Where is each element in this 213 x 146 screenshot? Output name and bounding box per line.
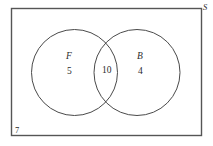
set-label-f: F bbox=[66, 52, 72, 62]
set-label-b: B bbox=[137, 52, 143, 62]
venn-diagram-figure: F 5 10 B 4 S 7 bbox=[0, 0, 213, 146]
region-count-f-only: 5 bbox=[67, 67, 72, 77]
region-count-b-only: 4 bbox=[138, 67, 143, 77]
region-count-intersection: 10 bbox=[102, 66, 112, 76]
universal-set-label: S bbox=[203, 3, 207, 12]
region-count-outside: 7 bbox=[15, 126, 19, 135]
